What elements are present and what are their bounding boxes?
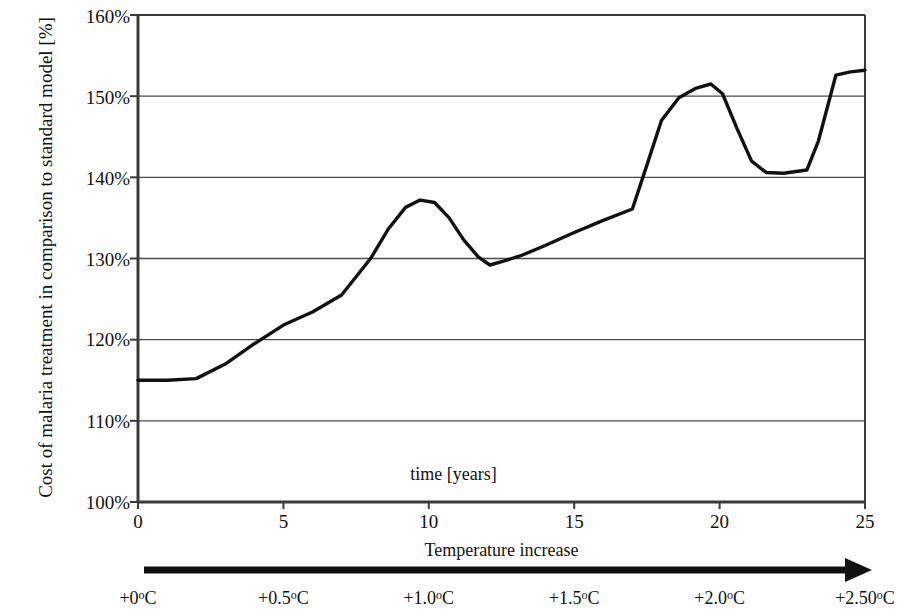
x-tick-label-20: 20 xyxy=(690,511,750,533)
x-tick-label-10: 10 xyxy=(399,511,459,533)
degree-symbol: o xyxy=(582,588,588,602)
x-tick-label-0: 0 xyxy=(108,511,168,533)
x-tick-label-15: 15 xyxy=(544,511,604,533)
degree-symbol: o xyxy=(291,588,297,602)
inner-time-note: time [years] xyxy=(0,464,907,485)
temperature-arrow-icon xyxy=(144,558,872,582)
temperature-label-3: +1.5oC xyxy=(514,588,634,609)
degree-symbol: o xyxy=(436,588,442,602)
chart-figure: Cost of malaria treatment in comparison … xyxy=(0,0,907,615)
data-line-series-0 xyxy=(138,70,865,380)
temperature-label-1: +0.5oC xyxy=(223,588,343,609)
temperature-label-0: +0oC xyxy=(78,588,198,609)
x-tick-label-5: 5 xyxy=(253,511,313,533)
degree-symbol: o xyxy=(877,588,883,602)
temperature-label-4: +2.0oC xyxy=(660,588,780,609)
x-axis-title: Temperature increase xyxy=(138,540,865,561)
degree-symbol: o xyxy=(139,588,145,602)
x-tick-label-25: 25 xyxy=(835,511,895,533)
degree-symbol: o xyxy=(727,588,733,602)
temperature-label-5: +2.50oC xyxy=(805,588,907,609)
gridlines xyxy=(138,96,865,421)
temperature-label-2: +1.0oC xyxy=(369,588,489,609)
